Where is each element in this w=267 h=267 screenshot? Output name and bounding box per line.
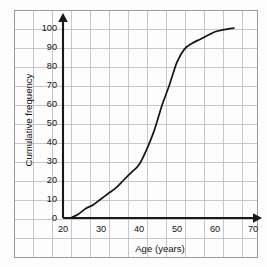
- y-tick-label: 80: [47, 61, 57, 71]
- cumulative-frequency-chart: 0102030405060708090100 203040506070 Age …: [0, 0, 267, 267]
- y-tick-label: 20: [47, 175, 57, 185]
- x-tick-label: 70: [248, 224, 258, 234]
- x-axis-ticks: 203040506070: [58, 224, 258, 234]
- y-axis-ticks: 0102030405060708090100: [42, 23, 57, 223]
- y-tick-label: 50: [47, 118, 57, 128]
- x-tick-label: 20: [58, 224, 68, 234]
- y-tick-label: 10: [47, 194, 57, 204]
- x-tick-label: 30: [96, 224, 106, 234]
- y-tick-label: 60: [47, 99, 57, 109]
- cumulative-frequency-curve: [71, 28, 234, 218]
- axes: [58, 13, 262, 223]
- x-tick-label: 40: [134, 224, 144, 234]
- y-tick-label: 100: [42, 23, 57, 33]
- y-tick-label: 40: [47, 137, 57, 147]
- y-axis-title: Cumulative frequency: [23, 73, 34, 166]
- y-tick-label: 70: [47, 80, 57, 90]
- chart-canvas: 0102030405060708090100 203040506070 Age …: [0, 0, 267, 267]
- y-tick-label: 30: [47, 156, 57, 166]
- x-axis-title: Age (years): [135, 243, 185, 254]
- x-tick-label: 50: [172, 224, 182, 234]
- y-tick-label: 0: [52, 213, 57, 223]
- x-tick-label: 60: [210, 224, 220, 234]
- y-axis-arrowhead: [58, 13, 68, 22]
- y-tick-label: 90: [47, 42, 57, 52]
